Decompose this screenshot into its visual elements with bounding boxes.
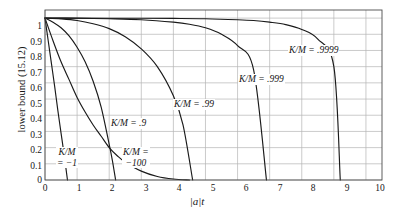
curve-label-km-09: K/M = .9 bbox=[110, 118, 147, 129]
curve-label-km-099: K/M = .99 bbox=[173, 99, 215, 110]
curve-label-line1: K/M bbox=[57, 147, 77, 158]
x-axis-label: |a|t bbox=[0, 195, 394, 207]
curve-label-km-neg100: K/M = −100 bbox=[122, 147, 150, 168]
curve-label-line2: −100 bbox=[123, 158, 149, 169]
curve-label-line2: = −1 bbox=[57, 158, 77, 169]
x-axis-label-text: |a|t bbox=[190, 195, 205, 207]
curve-label-km-neg1: K/M = −1 bbox=[56, 147, 78, 168]
grid-lines bbox=[45, 10, 382, 180]
figure-container: lower bound (15.12) 1 0.9 0.8 0.7 0.6 0.… bbox=[0, 0, 394, 217]
curve-label-km-0999: K/M = .999 bbox=[238, 74, 285, 85]
axis-frame bbox=[45, 10, 382, 180]
curve-label-km-09999: K/M = .9999 bbox=[288, 45, 339, 56]
curve-label-line1: K/M = bbox=[123, 147, 149, 158]
